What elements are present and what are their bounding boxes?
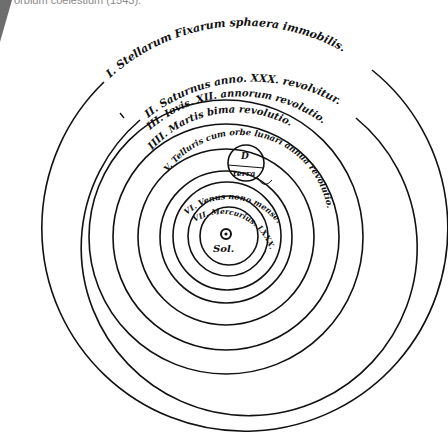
heliocentric-diagram: D terra Sol. I. Stellarum Fixarum sphaer… [0,0,448,445]
moon-symbol: D [240,151,249,161]
sun-label: Sol. [213,243,234,254]
sun-icon [221,229,231,239]
sphere-ring-earth-inner [160,171,292,303]
label-fixed-stars: I. Stellarum Fixarum sphaera immobilis. [103,16,349,81]
label-mercury: VII. Mercurius. LXXX. dierum. [0,0,277,251]
sphere-ring-saturn [81,118,417,416]
ring-tick [120,113,124,118]
sphere-ring-jupiter [89,100,363,374]
earth-label: terra [233,168,255,178]
sphere-ring-stars [42,70,448,431]
sphere-ring-earth-outer [138,149,314,325]
